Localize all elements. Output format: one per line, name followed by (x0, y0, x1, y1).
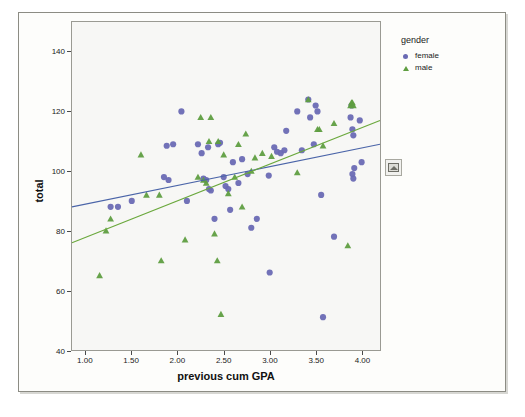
data-point (318, 192, 324, 198)
male-fit (72, 120, 380, 242)
data-point (199, 150, 205, 156)
legend-title: gender (401, 35, 497, 45)
x-tick-mark (131, 351, 132, 355)
data-point (283, 128, 289, 134)
x-tick-label: 1.00 (77, 356, 93, 365)
x-tick-mark (177, 351, 178, 355)
legend-entry-label: female (415, 51, 439, 60)
legend-entry-male[interactable]: male (401, 62, 497, 73)
y-tick-label: 100 (39, 167, 65, 176)
x-tick-mark (85, 351, 86, 355)
data-point (156, 192, 163, 198)
y-tick-label: 60 (39, 287, 65, 296)
data-point (211, 230, 218, 236)
data-point (197, 114, 204, 120)
data-point (331, 120, 338, 126)
triangle-marker-glyph (403, 66, 409, 71)
data-point (239, 156, 245, 162)
legend: gender femalemale (401, 35, 497, 74)
y-tick-label: 120 (39, 107, 65, 116)
y-tick-label: 80 (39, 227, 65, 236)
data-point (313, 102, 319, 108)
data-point (350, 132, 356, 138)
data-point (184, 198, 190, 204)
data-point (242, 130, 249, 136)
data-point (170, 141, 176, 147)
circle-marker-glyph (403, 54, 408, 59)
data-point (254, 216, 260, 222)
screenshot-root: total 406080100120140 1.001.502.002.503.… (0, 0, 525, 417)
y-axis-title: total (33, 179, 45, 202)
data-point (129, 198, 135, 204)
data-point (195, 174, 202, 180)
chart-viewer-frame: total 406080100120140 1.001.502.002.503.… (18, 12, 506, 392)
data-point (357, 117, 363, 123)
circle-marker-icon (401, 51, 411, 61)
data-point (307, 114, 313, 120)
legend-entry-label: male (415, 63, 432, 72)
data-point (268, 153, 275, 159)
data-point (221, 174, 227, 180)
female-fit (72, 144, 380, 207)
data-point (227, 207, 233, 213)
data-point (205, 144, 211, 150)
data-point (182, 236, 189, 242)
series-male (96, 96, 357, 317)
data-point (225, 190, 232, 196)
data-point (220, 151, 227, 157)
plot-svg (72, 22, 380, 350)
data-point (108, 204, 114, 210)
x-tick-mark (362, 351, 363, 355)
data-point (359, 159, 365, 165)
data-point (294, 108, 300, 114)
data-point (267, 269, 273, 275)
data-point (211, 216, 217, 222)
x-tick-label: 2.00 (170, 356, 186, 365)
series-female (108, 96, 365, 320)
data-point (164, 143, 170, 149)
data-point (331, 234, 337, 240)
data-point (96, 272, 103, 278)
plot-inner (72, 22, 380, 350)
data-point (350, 175, 356, 181)
data-point (165, 177, 171, 183)
data-point (138, 151, 145, 157)
x-tick-label: 3.00 (262, 356, 278, 365)
data-point (195, 141, 201, 147)
y-tick-label: 140 (39, 47, 65, 56)
data-point (218, 311, 225, 317)
data-point (347, 114, 353, 120)
data-point (320, 314, 326, 320)
scatter-chart: total 406080100120140 1.001.502.002.503.… (19, 13, 507, 391)
x-tick-mark (224, 351, 225, 355)
data-point (239, 203, 246, 209)
x-tick-mark (270, 351, 271, 355)
x-axis-title: previous cum GPA (71, 370, 381, 382)
chart-thumbnail-icon[interactable] (385, 159, 402, 176)
data-point (107, 215, 114, 221)
data-point (281, 147, 287, 153)
data-point (248, 225, 254, 231)
data-point (230, 159, 236, 165)
chart-thumbnail-glyph (388, 163, 399, 172)
data-point (252, 154, 259, 160)
legend-entries: femalemale (401, 50, 497, 73)
y-tick-mark (67, 351, 71, 352)
x-tick-label: 4.00 (355, 356, 371, 365)
triangle-marker-icon (401, 63, 411, 73)
data-point (314, 108, 320, 114)
plot-area (71, 21, 381, 351)
x-tick-label: 2.50 (216, 356, 232, 365)
legend-entry-female[interactable]: female (401, 50, 497, 61)
y-tick-label: 40 (39, 347, 65, 356)
data-point (115, 204, 121, 210)
data-point (266, 172, 272, 178)
data-point (178, 108, 184, 114)
data-point (259, 150, 266, 156)
data-point (158, 257, 165, 263)
x-tick-label: 3.50 (308, 356, 324, 365)
data-point (351, 165, 357, 171)
data-point (235, 141, 242, 147)
data-point (214, 257, 221, 263)
data-point (235, 180, 241, 186)
